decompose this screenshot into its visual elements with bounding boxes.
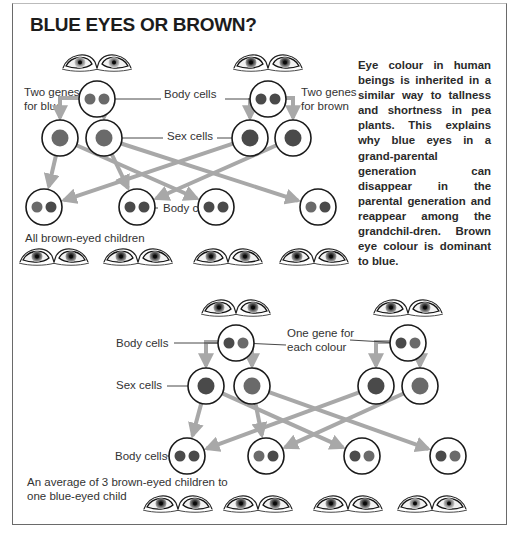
lower-lid xyxy=(431,510,467,512)
pupil xyxy=(249,61,253,65)
meiosis-arrow xyxy=(206,342,218,366)
gene-brown xyxy=(270,94,281,105)
parent-body-cell xyxy=(250,81,286,117)
lower-lid xyxy=(373,314,409,316)
gene-brown xyxy=(396,338,407,349)
pupil xyxy=(35,255,39,259)
child-eyes-left xyxy=(397,496,433,512)
cell-membrane xyxy=(119,189,155,225)
lower-lid xyxy=(397,510,433,512)
parent-eyes-right xyxy=(407,300,443,316)
parent-eyes-left xyxy=(201,300,237,316)
parent-eyes-left xyxy=(62,55,98,71)
parent-eyes-right xyxy=(267,55,303,71)
gene-brown xyxy=(242,130,259,147)
child-eyes-right xyxy=(347,496,383,512)
cell-membrane xyxy=(390,325,426,361)
fertilisation-arrow xyxy=(207,392,359,448)
inheritance-diagram xyxy=(0,0,514,538)
lower-lid xyxy=(62,69,98,71)
gene-brown xyxy=(189,451,200,462)
child-eyes-right xyxy=(227,249,263,265)
child-eyes-right xyxy=(137,249,173,265)
fertilisation-arrow xyxy=(193,403,202,435)
sex-cell xyxy=(42,120,78,156)
child-eyes-left xyxy=(223,496,259,512)
cell-membrane xyxy=(250,81,286,117)
pupil xyxy=(389,306,393,310)
child-eyes-left xyxy=(313,496,349,512)
parent-eyes-right xyxy=(96,55,132,71)
child-eyes-right xyxy=(177,496,213,512)
child-eyes-left xyxy=(193,249,229,265)
gene-brown xyxy=(320,202,331,213)
pupil xyxy=(243,255,247,259)
pupil xyxy=(159,502,163,506)
child-eyes-left xyxy=(19,249,55,265)
parent-eyes-left xyxy=(373,300,409,316)
cell-membrane xyxy=(26,189,62,225)
pupil xyxy=(283,61,287,65)
pupil xyxy=(251,306,255,310)
pupil xyxy=(119,255,123,259)
gene-blue xyxy=(85,94,96,105)
gene-brown xyxy=(139,202,150,213)
gene-blue xyxy=(96,130,113,147)
parent-eyes-left xyxy=(233,55,269,71)
gene-brown xyxy=(368,378,385,395)
gene-brown xyxy=(436,451,447,462)
pupil xyxy=(112,61,116,65)
cell-membrane xyxy=(198,189,234,225)
sex-cell xyxy=(402,368,438,404)
gene-brown xyxy=(175,451,186,462)
cell-membrane xyxy=(430,438,466,474)
cell-membrane xyxy=(218,325,254,361)
child-body-cell xyxy=(430,438,466,474)
gene-blue xyxy=(450,451,461,462)
gene-blue xyxy=(306,202,317,213)
pupil xyxy=(239,502,243,506)
lower-lid xyxy=(201,314,237,316)
gene-blue xyxy=(238,338,249,349)
gene-brown xyxy=(256,94,267,105)
gene-brown xyxy=(224,338,235,349)
child-body-cell xyxy=(169,438,205,474)
lower-lid xyxy=(223,510,259,512)
lower-lid xyxy=(19,263,55,265)
parent-eyes-right xyxy=(235,300,271,316)
child-body-cell xyxy=(198,189,234,225)
lower-lid xyxy=(407,314,443,316)
lower-lid xyxy=(233,69,269,71)
sex-cell xyxy=(234,368,270,404)
pupil xyxy=(193,502,197,506)
child-eyes-left xyxy=(103,249,139,265)
child-eyes-left xyxy=(143,496,179,512)
gene-blue xyxy=(410,338,421,349)
gene-blue xyxy=(32,202,43,213)
pupil xyxy=(69,255,73,259)
pupil xyxy=(329,502,333,506)
lower-lid xyxy=(257,510,293,512)
child-body-cell xyxy=(300,189,336,225)
lower-lid xyxy=(313,510,349,512)
gene-blue xyxy=(99,94,110,105)
cell-membrane xyxy=(248,438,284,474)
pupil xyxy=(447,502,451,506)
lower-lid xyxy=(177,510,213,512)
gene-blue xyxy=(52,130,69,147)
lower-lid xyxy=(193,263,229,265)
sex-cell xyxy=(358,368,394,404)
gene-blue xyxy=(254,451,265,462)
child-body-cell xyxy=(119,189,155,225)
lower-lid xyxy=(53,263,89,265)
child-body-cell xyxy=(248,438,284,474)
pupil xyxy=(295,255,299,259)
lower-lid xyxy=(143,510,179,512)
parent-body-cell xyxy=(79,81,115,117)
pupil xyxy=(423,306,427,310)
child-eyes-right xyxy=(257,496,293,512)
lower-lid xyxy=(347,510,383,512)
gene-brown xyxy=(218,202,229,213)
sex-cell xyxy=(232,120,268,156)
pupil xyxy=(363,502,367,506)
